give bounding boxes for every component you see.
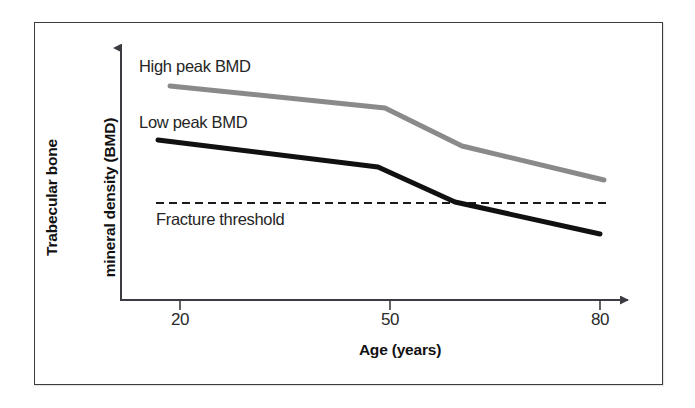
reference-label-fracture-threshold: Fracture threshold	[156, 210, 285, 229]
series-label-low-peak-bmd: Low peak BMD	[139, 113, 247, 132]
figure-root: Trabecular bone mineral density (BMD) Ag…	[0, 0, 695, 408]
x-tick-label-80: 80	[578, 310, 622, 330]
y-axis-label-line-1: Trabecular bone	[41, 88, 60, 308]
y-axis-label-line-2: mineral density (BMD)	[99, 88, 118, 308]
x-tick-label-50: 50	[368, 310, 412, 330]
y-axis-label: Trabecular bone mineral density (BMD)	[3, 88, 158, 308]
series-label-high-peak-bmd: High peak BMD	[139, 57, 251, 76]
x-axis-label: Age (years)	[300, 341, 500, 359]
x-tick-label-20: 20	[158, 310, 202, 330]
